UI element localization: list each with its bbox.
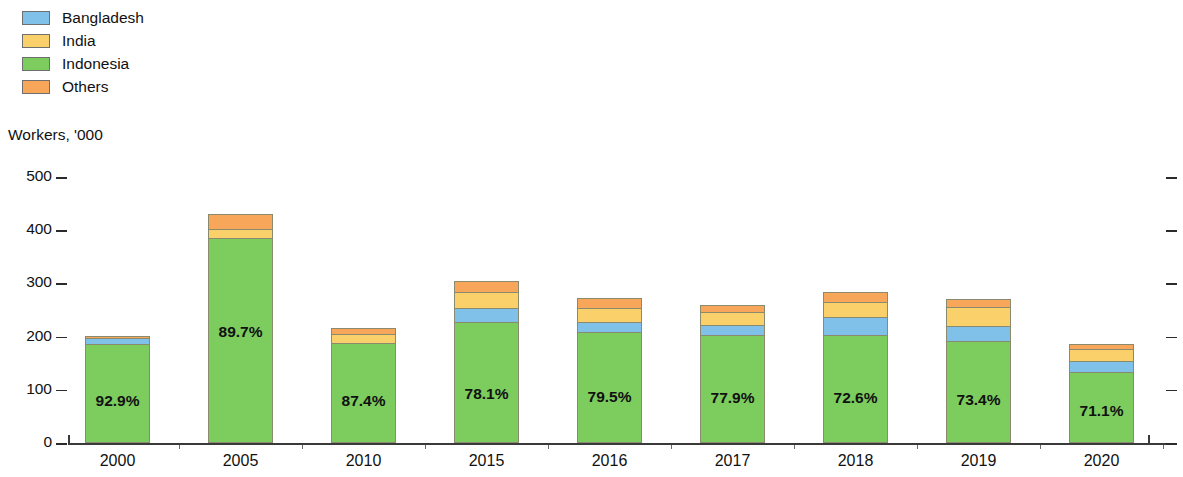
bar-segment-india[interactable] xyxy=(208,229,273,239)
x-axis-label-2020: 2020 xyxy=(1057,452,1146,470)
bar-2020[interactable]: 71.1% xyxy=(1069,344,1134,443)
y-tick-mark-right xyxy=(1166,230,1177,232)
y-tick-label: 400 xyxy=(8,220,52,238)
bar-segment-bangladesh[interactable] xyxy=(454,308,519,322)
y-tick-mark xyxy=(56,443,67,445)
bar-segment-bangladesh[interactable] xyxy=(1069,361,1134,373)
bar-data-label: 89.7% xyxy=(208,323,273,341)
x-axis-label-2010: 2010 xyxy=(319,452,408,470)
bar-2016[interactable]: 79.5% xyxy=(577,298,642,443)
y-tick-label: 500 xyxy=(8,167,52,185)
bar-segment-india[interactable] xyxy=(1069,349,1134,361)
y-tick-mark xyxy=(56,337,67,339)
y-tick-mark-right xyxy=(1166,283,1177,285)
x-axis-baseline xyxy=(68,443,1166,445)
bar-segment-indonesia[interactable] xyxy=(454,322,519,443)
bar-segment-bangladesh[interactable] xyxy=(946,326,1011,341)
bar-data-label: 72.6% xyxy=(823,389,888,407)
bar-2000[interactable]: 92.9% xyxy=(85,336,150,443)
bar-segment-india[interactable] xyxy=(577,308,642,322)
y-tick-label: 200 xyxy=(8,327,52,345)
x-axis-label-2019: 2019 xyxy=(934,452,1023,470)
bar-data-label: 73.4% xyxy=(946,391,1011,409)
y-tick-mark-right xyxy=(1166,177,1177,179)
bar-segment-india[interactable] xyxy=(454,292,519,308)
x-axis-label-2005: 2005 xyxy=(196,452,285,470)
bar-segment-bangladesh[interactable] xyxy=(700,325,765,335)
bar-segment-indonesia[interactable] xyxy=(208,238,273,443)
y-tick-mark xyxy=(56,177,67,179)
y-tick-mark xyxy=(56,283,67,285)
bar-2005[interactable]: 89.7% xyxy=(208,214,273,443)
bar-segment-others[interactable] xyxy=(208,214,273,228)
bar-data-label: 77.9% xyxy=(700,389,765,407)
x-axis-label-2017: 2017 xyxy=(688,452,777,470)
y-tick-mark-right xyxy=(1166,390,1177,392)
x-axis-label-2015: 2015 xyxy=(442,452,531,470)
bar-segment-others[interactable] xyxy=(454,281,519,292)
y-tick-label: 0 xyxy=(8,433,52,451)
stacked-bar-chart: 5004003002001000 92.9%89.7%87.4%78.1%79.… xyxy=(0,0,1183,477)
bar-data-label: 92.9% xyxy=(85,392,150,410)
bar-data-label: 71.1% xyxy=(1069,402,1134,420)
x-axis-label-2016: 2016 xyxy=(565,452,654,470)
y-tick-mark-right xyxy=(1166,443,1177,445)
bar-data-label: 87.4% xyxy=(331,392,396,410)
x-axis-label-2018: 2018 xyxy=(811,452,900,470)
bar-2018[interactable]: 72.6% xyxy=(823,292,888,443)
bar-data-label: 78.1% xyxy=(454,385,519,403)
y-tick-mark xyxy=(56,230,67,232)
bar-2010[interactable]: 87.4% xyxy=(331,328,396,443)
bar-segment-india[interactable] xyxy=(331,334,396,343)
y-tick-mark-right xyxy=(1166,337,1177,339)
bar-segment-bangladesh[interactable] xyxy=(823,317,888,335)
y-tick-mark xyxy=(56,390,67,392)
bar-2017[interactable]: 77.9% xyxy=(700,305,765,443)
bar-segment-others[interactable] xyxy=(577,298,642,309)
bar-segment-others[interactable] xyxy=(700,305,765,312)
x-axis-right-cap xyxy=(1148,435,1150,444)
bar-segment-bangladesh[interactable] xyxy=(577,322,642,332)
y-tick-label: 300 xyxy=(8,273,52,291)
x-axis-left-cap xyxy=(68,435,70,444)
bar-segment-india[interactable] xyxy=(823,302,888,318)
bar-segment-india[interactable] xyxy=(946,307,1011,326)
x-axis-label-2000: 2000 xyxy=(73,452,162,470)
bar-data-label: 79.5% xyxy=(577,388,642,406)
bar-segment-others[interactable] xyxy=(823,292,888,302)
bar-segment-india[interactable] xyxy=(700,312,765,325)
y-tick-label: 100 xyxy=(8,380,52,398)
bar-segment-others[interactable] xyxy=(946,299,1011,307)
bar-2019[interactable]: 73.4% xyxy=(946,299,1011,443)
bar-2015[interactable]: 78.1% xyxy=(454,281,519,443)
